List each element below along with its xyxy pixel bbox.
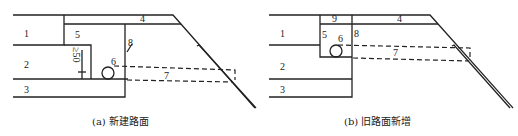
label-6: 6 (111, 56, 116, 67)
label-6: 6 (338, 33, 343, 44)
label-5: 5 (322, 29, 327, 40)
panel-a-new-pavement: 1 2 3 4 5 6 7 8 ≥50 (a) 新建路面 (13, 13, 256, 127)
layer-1-boundary (13, 15, 64, 45)
drainage-diagram: 1 2 3 4 5 6 7 8 ≥50 (a) 新建路面 1 2 3 4 5 6… (0, 0, 518, 136)
label-7: 7 (393, 47, 398, 58)
label-8: 8 (128, 37, 133, 48)
outlet-pipe-bottom (127, 80, 233, 82)
slope-protection (452, 45, 510, 108)
label-5: 5 (75, 29, 80, 40)
label-3: 3 (280, 84, 285, 95)
label-2: 2 (280, 61, 285, 72)
road-surface-slope (13, 15, 255, 108)
label-9: 9 (332, 13, 337, 24)
panel-b-old-pavement: 1 2 3 4 5 6 7 8 9 (b) 旧路面新增 (269, 13, 513, 127)
drain-pipe (102, 67, 114, 79)
label-8: 8 (354, 28, 359, 39)
label-1: 1 (280, 28, 285, 39)
dimension-label: ≥50 (71, 47, 82, 63)
layer-8-edge (13, 24, 125, 97)
label-4: 4 (397, 13, 402, 24)
label-3: 3 (24, 84, 29, 95)
label-4: 4 (140, 13, 145, 24)
outlet-pipe-bottom (353, 58, 469, 61)
caption-a: (a) 新建路面 (92, 115, 149, 127)
label-2: 2 (24, 59, 29, 70)
outlet-pipe-top (114, 66, 235, 80)
caption-b: (b) 旧路面新增 (344, 115, 411, 127)
drain-pipe (330, 45, 342, 57)
label-1: 1 (24, 28, 29, 39)
label-7: 7 (164, 70, 169, 81)
road-surface-slope (269, 15, 513, 108)
